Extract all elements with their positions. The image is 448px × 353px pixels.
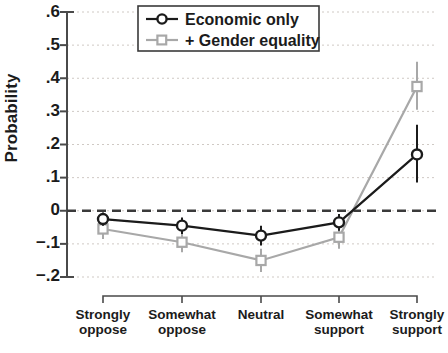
legend-label: + Gender equality [185, 32, 320, 49]
legend-label: Economic only [185, 11, 299, 28]
plot-area: Economic only+ Gender equality [0, 0, 448, 353]
x-category-line-1: Strongly [76, 307, 131, 322]
series-layer [98, 62, 422, 272]
x-category-line-2: oppose [79, 322, 127, 337]
x-category-label: Stronglyoppose [58, 307, 148, 337]
x-category-line-2: oppose [158, 322, 206, 337]
chart-figure: Probability .6 .5 .4 .3 .2 .1 0 −.1 −.2 … [0, 0, 448, 353]
x-category-line-1: Somewhat [305, 307, 373, 322]
series-economic-only [98, 125, 422, 246]
x-category-line-2: support [392, 322, 442, 337]
x-category-label: Stronglysupport [372, 307, 448, 337]
x-category-line-1: Neutral [238, 307, 285, 322]
chart-legend: Economic only+ Gender equality [138, 6, 320, 51]
x-category-label: Neutral [216, 307, 306, 322]
x-category-label: Somewhatoppose [137, 307, 227, 337]
x-category-line-2: support [314, 322, 364, 337]
x-category-label: Somewhatsupport [294, 307, 384, 337]
x-category-line-1: Somewhat [148, 307, 216, 322]
x-category-line-1: Strongly [390, 307, 445, 322]
x-axis-bracket [103, 296, 417, 303]
